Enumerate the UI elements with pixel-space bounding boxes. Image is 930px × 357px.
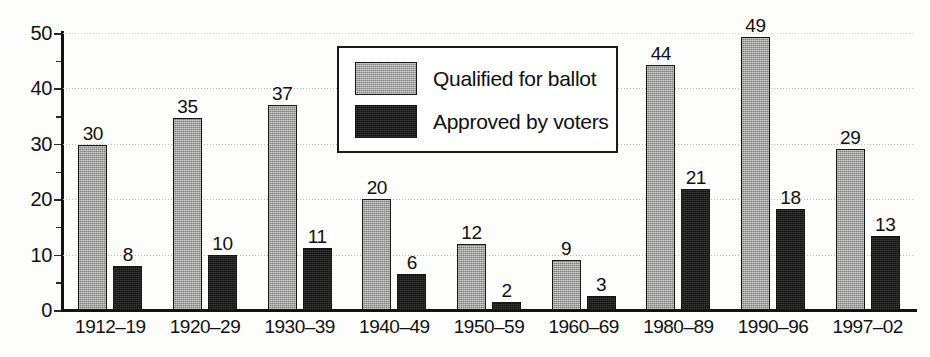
bar-group: 3711 bbox=[252, 33, 347, 310]
bar-chart: 01020304050 3083510371120612293442149182… bbox=[0, 0, 930, 357]
bar-qualified: 29 bbox=[836, 149, 865, 310]
bar-approved: 18 bbox=[776, 209, 805, 310]
bar-value-label: 6 bbox=[407, 253, 417, 272]
bar-value-label: 20 bbox=[367, 178, 387, 197]
bar-value-label: 10 bbox=[212, 234, 232, 253]
bar-value-label: 13 bbox=[875, 215, 895, 234]
y-tick-label: 20 bbox=[31, 189, 52, 209]
x-category-label: 1912–19 bbox=[63, 316, 158, 338]
bar-group: 4421 bbox=[631, 33, 726, 310]
y-tick-mark-minor bbox=[56, 227, 61, 229]
y-tick-mark bbox=[54, 199, 61, 201]
y-tick-mark bbox=[54, 88, 61, 90]
legend-label-approved: Approved by voters bbox=[433, 110, 609, 134]
x-axis-category-labels: 1912–191920–291930–391940–491950–591960–… bbox=[63, 316, 915, 338]
bar-qualified: 30 bbox=[78, 145, 107, 310]
bar-value-label: 8 bbox=[123, 245, 133, 264]
y-tick-mark-minor bbox=[56, 61, 61, 63]
bar-qualified: 37 bbox=[268, 105, 297, 310]
x-category-label: 1940–49 bbox=[347, 316, 442, 338]
bar-group: 2913 bbox=[820, 33, 915, 310]
bar-group: 308 bbox=[63, 33, 158, 310]
bar-qualified: 12 bbox=[457, 244, 486, 310]
x-category-label: 1997–02 bbox=[820, 316, 915, 338]
bar-value-label: 35 bbox=[177, 97, 197, 116]
bar-value-label: 11 bbox=[308, 227, 327, 246]
y-tick-label: 50 bbox=[31, 23, 52, 43]
legend-label-qualified: Qualified for ballot bbox=[433, 67, 596, 91]
legend-item: Approved by voters bbox=[355, 100, 616, 143]
bar-approved: 10 bbox=[208, 255, 237, 310]
bar-qualified: 9 bbox=[552, 260, 581, 310]
legend-swatch-qualified bbox=[355, 62, 417, 95]
bar-value-label: 37 bbox=[272, 84, 292, 103]
x-category-label: 1990–96 bbox=[726, 316, 821, 338]
y-tick-label: 30 bbox=[31, 134, 52, 154]
x-category-label: 1950–59 bbox=[442, 316, 537, 338]
bar-approved: 13 bbox=[871, 236, 900, 310]
bar-value-label: 18 bbox=[780, 188, 800, 207]
bar-value-label: 12 bbox=[461, 223, 481, 242]
legend-swatch-approved bbox=[355, 105, 417, 138]
bar-approved: 11 bbox=[303, 248, 332, 310]
x-category-label: 1960–69 bbox=[536, 316, 631, 338]
y-tick-mark bbox=[54, 33, 61, 35]
bar-approved: 2 bbox=[492, 302, 521, 310]
y-tick-mark bbox=[54, 255, 61, 257]
bar-qualified: 20 bbox=[362, 199, 391, 310]
y-axis-labels: 01020304050 bbox=[0, 33, 52, 310]
bar-value-label: 49 bbox=[745, 16, 765, 35]
y-tick-mark-minor bbox=[56, 116, 61, 118]
bar-value-label: 9 bbox=[561, 239, 571, 258]
x-category-label: 1980–89 bbox=[631, 316, 726, 338]
bar-value-label: 44 bbox=[651, 44, 671, 63]
bar-approved: 6 bbox=[397, 274, 426, 310]
bar-qualified: 35 bbox=[173, 118, 202, 310]
bar-value-label: 21 bbox=[686, 168, 706, 187]
y-tick-label: 0 bbox=[41, 300, 52, 320]
bar-qualified: 49 bbox=[741, 37, 770, 310]
bar-group: 3510 bbox=[158, 33, 253, 310]
bar-value-label: 29 bbox=[840, 128, 860, 147]
legend-item: Qualified for ballot bbox=[355, 57, 616, 100]
bar-group: 4918 bbox=[726, 33, 821, 310]
bar-approved: 3 bbox=[587, 296, 616, 310]
y-tick-mark bbox=[54, 310, 61, 312]
bar-approved: 8 bbox=[113, 266, 142, 310]
x-category-label: 1930–39 bbox=[252, 316, 347, 338]
y-tick-mark bbox=[54, 144, 61, 146]
chart-legend: Qualified for ballot Approved by voters bbox=[337, 46, 618, 153]
y-tick-label: 10 bbox=[31, 245, 52, 265]
bar-qualified: 44 bbox=[646, 65, 675, 310]
y-tick-label: 40 bbox=[31, 78, 52, 98]
y-tick-mark-minor bbox=[56, 172, 61, 174]
bar-value-label: 3 bbox=[596, 275, 606, 294]
bar-value-label: 2 bbox=[501, 281, 511, 300]
bar-approved: 21 bbox=[681, 189, 710, 310]
bar-value-label: 30 bbox=[83, 124, 103, 143]
y-tick-mark-minor bbox=[56, 282, 61, 284]
x-category-label: 1920–29 bbox=[158, 316, 253, 338]
